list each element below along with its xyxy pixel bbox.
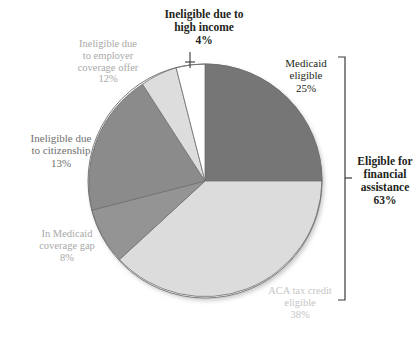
- slice-label-value: 13%: [2, 157, 120, 169]
- slice-label-value: 38%: [248, 309, 352, 321]
- slice-label-value: 25%: [258, 82, 354, 94]
- slice-label-aca-tax-credit-eligible: ACA tax credit eligible 38%: [248, 285, 352, 320]
- slice-label-line1: Ineligible due to: [124, 8, 284, 21]
- annotation-eligible-financial-assistance: Eligible for financial assistance 63%: [352, 155, 418, 207]
- slice-label-value: 8%: [8, 252, 126, 264]
- annotation-value: 63%: [352, 194, 418, 207]
- slice-label-line2: coverage gap: [8, 240, 126, 252]
- slice-label-ineligible-employer-coverage: Ineligible due to employer coverage offe…: [42, 38, 174, 85]
- slice-label-line1: Ineligible due: [42, 38, 174, 50]
- slice-label-line2: eligible: [248, 297, 352, 309]
- slice-label-in-medicaid-coverage-gap: In Medicaid coverage gap 8%: [8, 228, 126, 263]
- slice-label-line2: to employer: [42, 50, 174, 62]
- slice-label-line2: high income: [124, 21, 284, 34]
- slice-label-line2: to citizenship: [2, 144, 120, 156]
- annotation-line3: assistance: [352, 181, 418, 194]
- slice-label-medicaid-eligible: Medicaid eligible 25%: [258, 57, 354, 94]
- slice-label-line1: Medicaid: [258, 57, 354, 69]
- slice-label-line1: Ineligible due: [2, 132, 120, 144]
- annotation-line1: Eligible for: [352, 155, 418, 168]
- pie-chart: Ineligible due to high income 4% Ineligi…: [0, 0, 419, 344]
- slice-label-line3: coverage offer: [42, 62, 174, 74]
- slice-label-value: 12%: [42, 73, 174, 85]
- slice-label-ineligible-citizenship: Ineligible due to citizenship 13%: [2, 132, 120, 169]
- slice-label-line1: In Medicaid: [8, 228, 126, 240]
- slice-label-line1: ACA tax credit: [248, 285, 352, 297]
- annotation-line2: financial: [352, 168, 418, 181]
- slice-label-line2: eligible: [258, 69, 354, 81]
